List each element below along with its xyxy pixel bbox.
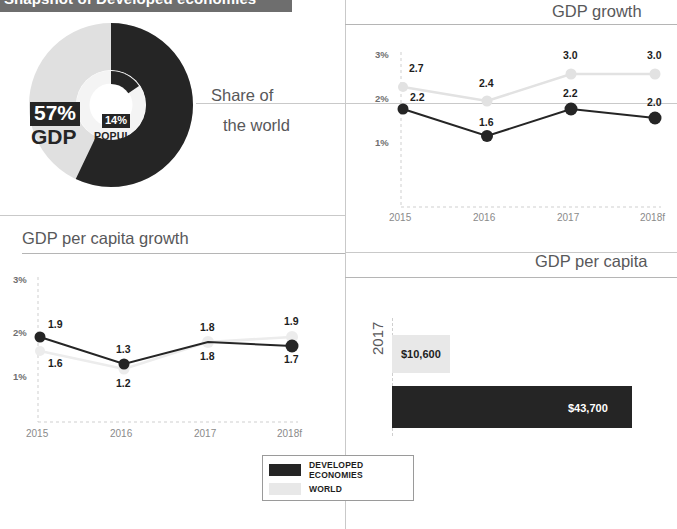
pcg-world-label-2016: 1.2: [116, 377, 131, 389]
gdp-growth-dev-label-2016: 1.6: [479, 116, 494, 128]
pcg-world-label-2017: 1.8: [200, 350, 215, 362]
pcg-ytick-3: 3%: [13, 274, 27, 285]
gdp-growth-xtick-2016: 2016: [473, 212, 495, 223]
legend-swatch-developed: [269, 464, 301, 476]
infographic-page: Snapshot of Developed economies 57% GDP …: [0, 0, 677, 529]
gdp-growth-ytick-2: 2%: [375, 93, 389, 104]
bar-chart-year-label: 2017: [369, 322, 386, 355]
chart-legend: DEVELOPED ECONOMIES WORLD: [262, 455, 414, 501]
gdp-share-label: GDP: [31, 126, 77, 148]
legend-item-world: WORLD: [269, 480, 407, 497]
gdp-growth-ytick-1: 1%: [375, 137, 389, 148]
pcg-ytick-1: 1%: [13, 371, 27, 382]
section-rule-gdp-growth: [345, 24, 677, 25]
legend-item-developed: DEVELOPED ECONOMIES: [269, 461, 407, 478]
gdp-growth-world-label-2017: 3.0: [563, 49, 578, 61]
pcg-xtick-2017: 2017: [194, 428, 216, 439]
gdp-growth-dev-label-2015: 2.2: [410, 91, 425, 103]
pcg-ytick-2: 2%: [13, 327, 27, 338]
gdp-share-value: 57%: [30, 102, 80, 126]
section-title-gdp-growth: GDP growth: [552, 2, 642, 21]
gdp-growth-ytick-3: 3%: [375, 49, 389, 60]
pcg-xtick-2018f: 2018f: [277, 428, 302, 439]
legend-label-developed: DEVELOPED ECONOMIES: [309, 460, 407, 480]
page-title: Snapshot of Developed economies: [0, 0, 292, 12]
gdp-growth-world-label-2016: 2.4: [479, 77, 494, 89]
gdp-growth-xtick-2015: 2015: [389, 212, 411, 223]
pcg-dev-label-2015: 1.9: [48, 318, 63, 330]
gdp-growth-dev-label-2018f: 2.0: [647, 96, 662, 108]
pcg-xtick-2015: 2015: [26, 428, 48, 439]
share-heading-line2: the world: [211, 110, 331, 140]
gdp-growth-xtick-2018f: 2018f: [640, 212, 665, 223]
gdp-growth-xtick-2017: 2017: [557, 212, 579, 223]
horizontal-divider-left: [0, 215, 345, 216]
vertical-divider-main: [345, 0, 346, 529]
pcg-world-label-2018f: 1.9: [284, 315, 299, 327]
section-rule-gdp-per-capita: [345, 277, 677, 278]
gdp-per-capita-bar-chart: $10,600 $43,700: [392, 320, 672, 430]
share-donut-chart: 57% GDP 14% POPULATION: [28, 22, 194, 188]
gdp-growth-chart: 3% 2% 1% 2015 2016 2017 2018f 2.7 2.4 3.…: [375, 40, 665, 220]
share-of-world-heading: Share of the world: [211, 80, 331, 140]
pcg-dev-label-2017: 1.8: [200, 321, 215, 333]
gdp-growth-world-label-2015: 2.7: [409, 62, 424, 74]
section-title-gdp-per-capita-growth: GDP per capita growth: [22, 229, 189, 248]
gdp-growth-world-label-2018f: 3.0: [647, 49, 662, 61]
pcg-xtick-2016: 2016: [110, 428, 132, 439]
legend-swatch-world: [269, 483, 301, 495]
population-share-label: POPULATION: [94, 130, 164, 142]
section-title-gdp-per-capita: GDP per capita: [535, 252, 648, 271]
pcg-dev-label-2018f: 1.7: [284, 353, 299, 365]
population-share-value: 14%: [102, 114, 130, 128]
section-rule-gdp-per-capita-growth: [22, 253, 345, 254]
bar-developed-value: $43,700: [568, 402, 608, 414]
gdp-growth-dev-label-2017: 2.2: [563, 87, 578, 99]
legend-label-world: WORLD: [309, 484, 342, 494]
pcg-dev-label-2016: 1.3: [116, 343, 131, 355]
gdp-per-capita-growth-chart: 3% 2% 1% 2015 2016 2017 2018f 1.9 1.3 1.…: [8, 265, 308, 445]
pcg-world-label-2015: 1.6: [48, 357, 63, 369]
share-heading-line1: Share of: [211, 80, 331, 110]
bar-world-value: $10,600: [401, 348, 441, 360]
